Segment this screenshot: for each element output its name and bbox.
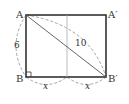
diagonal-line <box>26 15 106 77</box>
label-B-prime: B′ <box>108 73 118 84</box>
label-B: B <box>16 73 23 84</box>
label-x-left: x <box>43 81 48 91</box>
label-x-right: x <box>85 81 90 91</box>
geometry-diagram: A A′ B B′ 6 10 x x <box>0 0 129 104</box>
label-side-6: 6 <box>14 40 20 50</box>
label-A: A <box>15 9 24 20</box>
label-A-prime: A′ <box>107 9 118 20</box>
label-diagonal-10: 10 <box>75 38 87 48</box>
